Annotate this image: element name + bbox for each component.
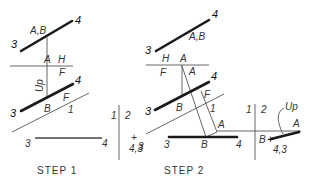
step2-front-end-left: 3 — [145, 105, 152, 117]
step2-caption: STEP 2 — [164, 165, 204, 176]
step2-fold-line-f1 — [146, 94, 224, 134]
step2-aux-point-b: B — [201, 139, 208, 150]
step2-fold-point-a-upper: A — [179, 53, 187, 64]
step1-front-end-left: 3 — [10, 107, 17, 119]
step2-up-curve — [278, 108, 284, 134]
step2-front-end-right: 4 — [211, 70, 217, 82]
step1-fold-label-h: H — [58, 54, 66, 65]
step2-fold-label-right: 2 — [260, 104, 267, 115]
step1-up-label: Up — [34, 79, 45, 92]
step2-point-view-label: 4,3 — [273, 144, 287, 155]
step2-top-end-left: 3 — [145, 44, 152, 56]
step1-fold-point-a: A — [43, 54, 51, 65]
drawing-canvas: 3 4 A,B A H F Up 3 4 B F 1 3 4 1 2 + 4,3… — [0, 0, 310, 178]
step1-fold-label-right: 2 — [124, 110, 131, 121]
step2-stray-label: 3 — [138, 141, 144, 152]
step2-aux-end-right: 4 — [236, 139, 242, 150]
step2-aux-point-a: A — [217, 119, 225, 130]
step2-top-point-label: A,B — [188, 31, 205, 42]
step1-top-end-left: 3 — [11, 38, 18, 50]
step1-caption: STEP 1 — [37, 165, 77, 176]
step1-fold-label-1: 1 — [68, 104, 74, 115]
step1-fold-line-f1 — [12, 93, 89, 132]
step2-point-b-label: B — [259, 134, 266, 145]
step1-top-end-right: 4 — [75, 14, 81, 26]
step1-group: 3 4 A,B A H F Up 3 4 B F 1 3 4 1 2 + 4,3… — [10, 14, 143, 176]
step1-top-view-line — [21, 21, 72, 51]
step2-front-plane-f: F — [204, 89, 211, 100]
step2-front-point-b: B — [176, 102, 183, 113]
step1-fold-label-f: F — [59, 67, 66, 78]
step1-aux-end-left: 3 — [25, 138, 31, 149]
step2-fold-label-h: H — [162, 53, 170, 64]
step2-fold-label-1: 1 — [210, 103, 216, 114]
step2-aux-end-left: 3 — [164, 139, 170, 150]
step2-fold-point-a-lower: A — [188, 66, 196, 77]
step2-fold-label-left: 1 — [246, 104, 252, 115]
step1-fold-label-left: 1 — [111, 110, 117, 121]
step2-top-end-right: 4 — [212, 8, 218, 20]
step1-front-plane-f: F — [63, 92, 70, 103]
step2-point-a-label: A — [292, 118, 300, 129]
step1-front-end-right: 4 — [75, 74, 81, 86]
step2-point-view-line — [271, 132, 299, 139]
step1-aux-end-right: 4 — [102, 138, 108, 149]
step1-top-point-label: A,B — [29, 25, 46, 36]
step1-point-marker: + — [131, 132, 137, 143]
step2-fold-label-f: F — [160, 67, 167, 78]
step2-up-label: Up — [285, 101, 298, 112]
step2-group: 3 4 A,B H A F A 3 4 B F 1 3 B 4 A 3 1 2 … — [138, 8, 301, 176]
